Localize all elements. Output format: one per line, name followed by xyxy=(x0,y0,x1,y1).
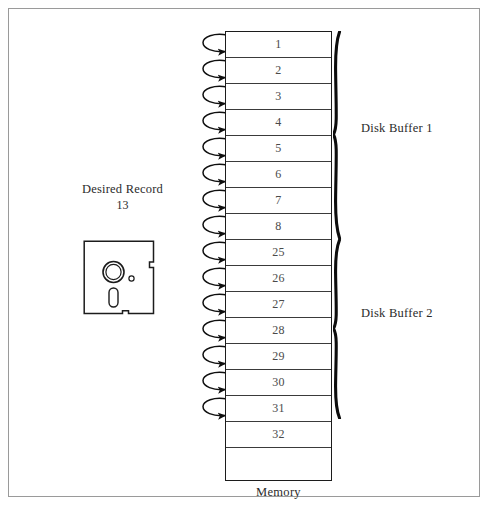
memory-row: 1 xyxy=(226,32,331,58)
memory-row: 32 xyxy=(226,422,331,448)
figure-frame: Desired Record 13 xyxy=(8,8,480,497)
disk-buffer-1-label: Disk Buffer 1 xyxy=(361,121,433,136)
memory-block: 1 2 3 4 5 6 7 8 25 26 27 28 29 30 31 32 xyxy=(225,31,332,481)
curly-brace-icon xyxy=(333,239,355,419)
memory-row: 27 xyxy=(226,292,331,318)
desired-record-title: Desired Record xyxy=(45,181,200,197)
memory-row: 5 xyxy=(226,136,331,162)
floppy-disk-icon xyxy=(83,240,161,319)
memory-row: 2 xyxy=(226,58,331,84)
desired-record-caption: Desired Record 13 xyxy=(45,181,200,213)
memory-row: 7 xyxy=(226,188,331,214)
memory-row: 31 xyxy=(226,396,331,422)
desired-record-number: 13 xyxy=(45,198,200,213)
memory-row: 26 xyxy=(226,266,331,292)
memory-row: 29 xyxy=(226,344,331,370)
memory-label: Memory xyxy=(225,485,332,500)
memory-row: 30 xyxy=(226,370,331,396)
memory-row: 8 xyxy=(226,214,331,240)
memory-row: 4 xyxy=(226,110,331,136)
memory-row: 25 xyxy=(226,240,331,266)
disk-buffer-2-label: Disk Buffer 2 xyxy=(361,306,433,321)
curly-brace-icon xyxy=(333,31,355,239)
memory-row: 3 xyxy=(226,84,331,110)
memory-row: 6 xyxy=(226,162,331,188)
memory-row: 28 xyxy=(226,318,331,344)
